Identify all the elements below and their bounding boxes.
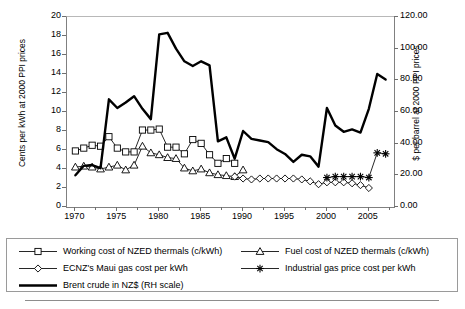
axis-tickmark (62, 73, 66, 74)
plot-area (66, 16, 395, 208)
axis-tickmark (347, 207, 348, 210)
axis-tickmark (62, 168, 66, 169)
legend-item-label: Fuel cost of NZED thermals (c/kWh) (281, 246, 429, 256)
legend-item-label: ECNZ's Maui gas cost per kWh (59, 263, 188, 273)
y-right-tick-20.00: 20.00 (400, 168, 440, 178)
axis-tickmark (62, 206, 66, 207)
legend-item-2[interactable]: Fuel cost of NZED thermals (c/kWh) (239, 243, 429, 258)
axis-tickmark (263, 207, 264, 210)
legend-marker-triangle-icon (239, 244, 281, 257)
axis-tickmark (394, 174, 398, 175)
axis-tickmark (394, 79, 398, 80)
axis-tickmark (200, 207, 201, 211)
axis-tickmark (394, 16, 398, 17)
y-right-tick-100.00: 100.00 (400, 42, 440, 52)
axis-tickmark (158, 207, 159, 211)
series-4 (323, 149, 389, 181)
x-tick-1975: 1975 (96, 211, 136, 221)
y-left-tick-14: 14 (35, 67, 61, 77)
legend-item-5[interactable]: Brent crude in NZ$ (RH scale) (17, 277, 184, 292)
axis-tickmark (62, 187, 66, 188)
chart-legend: Working cost of NZED thermals (c/kWh)Fue… (6, 238, 458, 292)
y-right-tick-40.00: 40.00 (400, 137, 440, 147)
axis-tickmark (62, 111, 66, 112)
axis-tickmark (74, 207, 75, 211)
x-tick-1970: 1970 (54, 211, 94, 221)
axis-tickmark (326, 207, 327, 211)
axis-tickmark (137, 207, 138, 210)
y-left-tick-18: 18 (35, 29, 61, 39)
y-right-tick-60.00: 60.00 (400, 105, 440, 115)
axis-tickmark (62, 35, 66, 36)
axis-tickmark (62, 149, 66, 150)
legend-item-label: Industrial gas price cost per kWh (281, 263, 416, 273)
legend-item-4[interactable]: Industrial gas price cost per kWh (239, 260, 416, 275)
y-left-tick-8: 8 (35, 124, 61, 134)
footer-rule (25, 300, 439, 301)
y-left-tick-4: 4 (35, 162, 61, 172)
x-tick-1985: 1985 (180, 211, 220, 221)
axis-tickmark (62, 130, 66, 131)
legend-marker-square-icon (17, 244, 59, 257)
figure: Cents per kWh at 2000 PPI prices $ per b… (6, 2, 458, 296)
legend-item-label: Working cost of NZED thermals (c/kWh) (59, 246, 222, 256)
y-left-tick-0: 0 (35, 200, 61, 210)
legend-item-1[interactable]: Working cost of NZED thermals (c/kWh) (17, 243, 222, 258)
y-left-tick-10: 10 (35, 105, 61, 115)
chart-page: Cents per kWh at 2000 PPI prices $ per b… (0, 0, 465, 309)
series-canvas (67, 17, 394, 207)
axis-tickmark (95, 207, 96, 210)
axis-tickmark (284, 207, 285, 211)
axis-tickmark (305, 207, 306, 210)
y-left-tick-16: 16 (35, 48, 61, 58)
series-5 (75, 33, 385, 176)
axis-tickmark (62, 92, 66, 93)
x-tick-2005: 2005 (348, 211, 388, 221)
legend-item-3[interactable]: ECNZ's Maui gas cost per kWh (17, 260, 188, 275)
y-left-tick-12: 12 (35, 86, 61, 96)
x-tick-1990: 1990 (222, 211, 262, 221)
axis-tickmark (62, 16, 66, 17)
y-right-tick-0.00: 0.00 (400, 200, 440, 210)
x-tick-2000: 2000 (306, 211, 346, 221)
axis-tickmark (394, 206, 398, 207)
axis-tickmark (394, 111, 398, 112)
y-right-tick-120.00: 120.00 (400, 10, 440, 20)
axis-tickmark (116, 207, 117, 211)
x-tick-1980: 1980 (138, 211, 178, 221)
y-left-tick-20: 20 (35, 10, 61, 20)
axis-tickmark (394, 143, 398, 144)
axis-tickmark (221, 207, 222, 210)
legend-item-label: Brent crude in NZ$ (RH scale) (59, 280, 184, 290)
series-1 (72, 126, 238, 166)
axis-tickmark (368, 207, 369, 211)
chart-frame: Cents per kWh at 2000 PPI prices $ per b… (6, 2, 458, 233)
axis-tickmark (62, 54, 66, 55)
legend-marker-diamond-icon (17, 261, 59, 274)
y-right-tick-80.00: 80.00 (400, 73, 440, 83)
axis-tickmark (242, 207, 243, 211)
y-left-tick-2: 2 (35, 181, 61, 191)
y-axis-left-title: Cents per kWh at 2000 PPI prices (17, 23, 27, 183)
axis-tickmark (179, 207, 180, 210)
legend-marker-thick-line-icon (17, 278, 59, 291)
axis-tickmark (389, 207, 390, 210)
legend-marker-asterisk-icon (239, 261, 281, 274)
x-tick-1995: 1995 (264, 211, 304, 221)
axis-tickmark (394, 48, 398, 49)
y-left-tick-6: 6 (35, 143, 61, 153)
